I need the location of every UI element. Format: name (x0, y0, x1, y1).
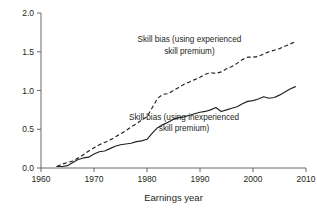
y-tick-label: 0.5 (22, 124, 34, 134)
y-tick-label: 0.0 (22, 163, 34, 173)
x-axis-tick-labels: 196019701980199020002010 (32, 174, 316, 184)
x-tick-label: 1980 (138, 174, 157, 184)
series-line-experienced (57, 42, 296, 167)
x-tick-label: 1970 (85, 174, 104, 184)
y-tick-label: 1.0 (22, 86, 34, 96)
series-annotations: Skill bias (using experiencedskill premi… (129, 35, 242, 133)
y-tick-label: 1.5 (22, 47, 34, 57)
x-tick-label: 2000 (244, 174, 263, 184)
data-series-group (57, 42, 296, 167)
line-chart: 0.00.51.01.52.0 196019701980199020002010… (0, 0, 317, 210)
experienced-series-label: Skill bias (using experiencedskill premi… (138, 35, 242, 56)
y-tick-label: 2.0 (22, 8, 34, 18)
x-tick-label: 1990 (191, 174, 210, 184)
chart-figure: 0.00.51.01.52.0 196019701980199020002010… (0, 0, 317, 210)
x-tick-label: 1960 (32, 174, 51, 184)
annotation-line-1: Skill bias (using inexperienced (129, 113, 240, 122)
x-tick-label: 2010 (297, 174, 316, 184)
annotation-line-1: Skill bias (using experienced (138, 35, 242, 44)
annotation-line-2: skill premium) (159, 124, 210, 133)
annotation-line-2: skill premium) (164, 47, 215, 56)
inexperienced-series-label: Skill bias (using inexperiencedskill pre… (129, 113, 240, 134)
x-axis-title: Earnings year (144, 192, 203, 203)
y-axis-tick-labels: 0.00.51.01.52.0 (22, 8, 34, 173)
